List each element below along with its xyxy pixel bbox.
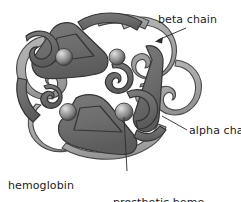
hemoglobin-molecule-label-line1: hemoglobin <box>8 180 74 193</box>
heme-bottom-left-sphere <box>60 104 77 121</box>
beta-chain-label: beta chain <box>158 14 217 27</box>
prosthetic-heme-group-label: prosthetic heme group <box>113 172 204 202</box>
prosthetic-heme-group-label-line1: prosthetic heme <box>113 197 204 202</box>
hemoglobin-figure: beta chain alpha chain hemoglobin molecu… <box>0 0 241 202</box>
beta-chain-leader-arrowhead <box>155 37 163 44</box>
hemoglobin-molecule-label: hemoglobin molecule <box>8 155 74 202</box>
alpha-chain-center-curl <box>105 63 133 94</box>
heme-top-right-sphere <box>109 49 125 65</box>
heme-top-left-sphere <box>56 49 73 66</box>
alpha-chain-label: alpha chain <box>189 125 241 138</box>
